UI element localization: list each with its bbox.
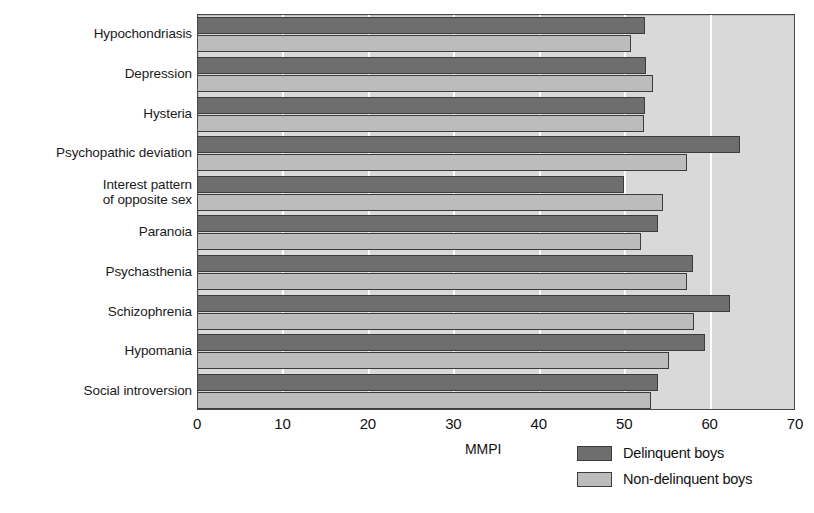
category-label-line: Psychasthenia [0, 264, 192, 279]
legend-item-non-delinquent-boys: Non-delinquent boys [577, 466, 752, 492]
legend-label-non-delinquent-boys: Non-delinquent boys [623, 471, 752, 487]
bar-row [198, 255, 794, 272]
bar-row [198, 35, 794, 52]
bar [198, 115, 644, 132]
x-tick-label-70: 70 [787, 415, 803, 432]
bar-row [198, 334, 794, 351]
chart-legend: Delinquent boys Non-delinquent boys [577, 440, 752, 492]
bar [198, 176, 624, 193]
bar [198, 313, 694, 330]
category-label-line: Paranoia [0, 224, 192, 239]
category-label-line: Interest pattern [0, 177, 192, 192]
category-label-line: Depression [0, 66, 192, 81]
bar-row [198, 374, 794, 391]
bar [198, 35, 631, 52]
bar [198, 57, 646, 74]
bar [198, 17, 645, 34]
bar-row [198, 273, 794, 290]
plot-inner [198, 15, 794, 409]
category-label-6: Psychasthenia [0, 264, 192, 279]
bar-row [198, 233, 794, 250]
x-tick-label-0: 0 [193, 415, 201, 432]
category-label-9: Social introversion [0, 383, 192, 398]
bar [198, 215, 658, 232]
bar [198, 97, 645, 114]
bar-row [198, 136, 794, 153]
chart-root: HypochondriasisDepressionHysteriaPsychop… [0, 0, 814, 513]
category-label-7: Schizophrenia [0, 304, 192, 319]
bar-row [198, 194, 794, 211]
category-label-8: Hypomania [0, 343, 192, 358]
bar-row [198, 295, 794, 312]
legend-label-delinquent-boys: Delinquent boys [623, 445, 724, 461]
bar [198, 233, 641, 250]
bar-row [198, 215, 794, 232]
category-label-line: Schizophrenia [0, 304, 192, 319]
bar-row [198, 57, 794, 74]
bar-row [198, 154, 794, 171]
bar [198, 75, 653, 92]
bar [198, 255, 693, 272]
category-label-1: Depression [0, 66, 192, 81]
bar [198, 334, 705, 351]
bar-row [198, 176, 794, 193]
legend-swatch-icon-dark [577, 446, 612, 461]
category-label-line: Hypochondriasis [0, 26, 192, 41]
category-label-5: Paranoia [0, 224, 192, 239]
bar-row [198, 17, 794, 34]
x-tick-label-60: 60 [701, 415, 717, 432]
x-tick-label-10: 10 [274, 415, 290, 432]
category-label-line: Social introversion [0, 383, 192, 398]
x-tick-label-20: 20 [360, 415, 376, 432]
bar-row [198, 75, 794, 92]
legend-item-delinquent-boys: Delinquent boys [577, 440, 752, 466]
category-label-2: Hysteria [0, 106, 192, 121]
bar [198, 352, 669, 369]
legend-swatch-icon-light [577, 472, 612, 487]
category-label-line: Psychopathic deviation [0, 145, 192, 160]
x-tick-label-50: 50 [616, 415, 632, 432]
bar [198, 273, 687, 290]
bar-row [198, 97, 794, 114]
category-label-4: Interest patternof opposite sex [0, 177, 192, 207]
x-tick-label-30: 30 [445, 415, 461, 432]
bar [198, 194, 663, 211]
bar [198, 154, 687, 171]
x-axis-title: MMPI [465, 441, 502, 457]
bar-row [198, 115, 794, 132]
category-label-line: Hypomania [0, 343, 192, 358]
bar-row [198, 352, 794, 369]
bar [198, 136, 740, 153]
bar-row [198, 392, 794, 409]
bar [198, 392, 651, 409]
category-label-line: Hysteria [0, 106, 192, 121]
category-label-0: Hypochondriasis [0, 26, 192, 41]
bar [198, 295, 730, 312]
bar-row [198, 313, 794, 330]
plot-area [197, 14, 795, 410]
bar [198, 374, 658, 391]
x-tick-label-40: 40 [531, 415, 547, 432]
category-label-3: Psychopathic deviation [0, 145, 192, 160]
category-label-line: of opposite sex [0, 192, 192, 207]
